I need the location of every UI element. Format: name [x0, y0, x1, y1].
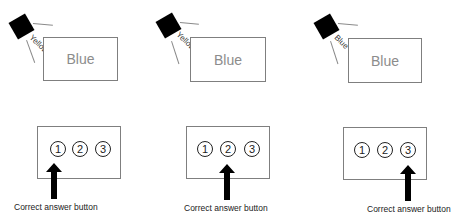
stimulus-box: Blue — [43, 37, 118, 81]
correct-answer-caption: Correct answer button — [367, 204, 451, 214]
stimulus-word: Blue — [66, 51, 94, 67]
sound-line-upper — [33, 23, 53, 26]
option-button-3[interactable]: 3 — [95, 141, 111, 157]
option-button-1[interactable]: 1 — [354, 142, 370, 158]
trial-panel-1: Yellow Blue 1 2 3 Correct answer button — [0, 0, 150, 223]
option-button-1[interactable]: 1 — [50, 141, 66, 157]
stimulus-word: Blue — [214, 52, 242, 68]
stimulus-box: Blue — [348, 38, 422, 83]
option-button-2[interactable]: 2 — [377, 142, 393, 158]
correct-answer-caption: Correct answer button — [184, 203, 268, 213]
stimulus-word: Blue — [371, 53, 399, 69]
arrow-up-icon — [400, 165, 416, 201]
sound-line-lower — [171, 41, 179, 64]
stimulus-box: Blue — [190, 37, 266, 82]
option-button-3[interactable]: 3 — [244, 141, 260, 157]
correct-answer-caption: Correct answer button — [14, 202, 98, 212]
option-button-1[interactable]: 1 — [197, 141, 213, 157]
sound-line-upper — [338, 23, 358, 26]
option-button-2[interactable]: 2 — [220, 141, 236, 157]
trial-panel-2: Yellow Blue 1 2 3 Correct answer button — [150, 0, 300, 223]
arrow-up-icon — [46, 163, 62, 199]
option-button-3[interactable]: 3 — [400, 142, 416, 158]
arrow-up-icon — [219, 164, 235, 200]
trial-panel-3: Blue Blue 1 2 3 Correct answer button — [300, 0, 461, 223]
sound-line-upper — [180, 22, 199, 25]
option-button-2[interactable]: 2 — [72, 141, 88, 157]
